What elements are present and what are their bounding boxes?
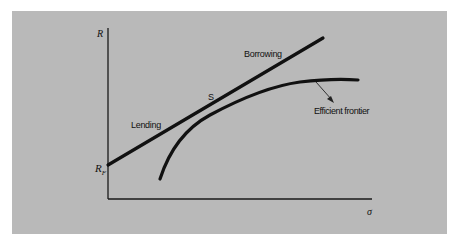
diagram-canvas: R σ RF S Lending Borrowing Efficient fro… (0, 0, 459, 247)
tangency-label: S (208, 92, 214, 102)
frontier-arrowhead (327, 96, 334, 103)
y-axis-label: R (96, 28, 103, 39)
efficient-frontier-curve (160, 79, 358, 179)
rf-label: RF (94, 162, 107, 177)
efficient-frontier-label: Efficient frontier (314, 106, 370, 116)
capital-market-line (108, 38, 323, 165)
lending-label: Lending (131, 120, 161, 130)
borrowing-label: Borrowing (244, 49, 282, 59)
x-axis-label: σ (367, 206, 373, 217)
